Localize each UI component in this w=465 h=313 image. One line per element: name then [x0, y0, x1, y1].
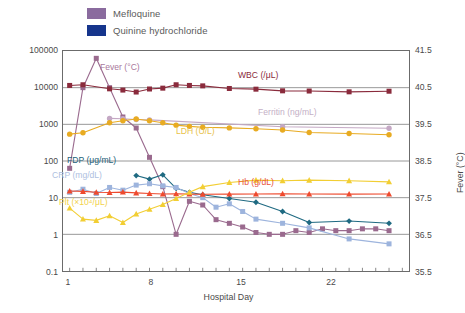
x-tick-15: 15: [233, 277, 249, 287]
treatment-legend: Mefloquine Quinine hydrochloride: [87, 6, 208, 40]
crp-label: CRP (mg/dL): [52, 170, 102, 180]
y-right-tick-38.5: 38.5: [415, 156, 432, 166]
ldh-label: LDH (U/L): [176, 126, 215, 136]
legend-label-quinine-hydrochloride: Quinine hydrochloride: [113, 25, 208, 36]
fdp-label: FDP (μg/mL): [67, 155, 116, 165]
y-right-tick-36.5: 36.5: [415, 230, 432, 240]
x-tick-1: 1: [60, 277, 76, 287]
x-axis-title: Hospital Day: [0, 292, 457, 302]
x-tick-22: 22: [323, 277, 339, 287]
y-right-tick-37.5: 37.5: [415, 193, 432, 203]
legend-label-mefloquine: Mefloquine: [113, 8, 160, 19]
y-right-tick-39.5: 39.5: [415, 119, 432, 129]
y-left-tick-1000: 1000: [0, 119, 58, 129]
y-left-tick-10000: 10000: [0, 82, 58, 92]
y-right-tick-40.5: 40.5: [415, 82, 432, 92]
series-wbc-l: [67, 82, 391, 94]
ferritin-label: Ferritin (ng/mL): [258, 107, 317, 117]
y-left-tick-0.1: 0.1: [0, 267, 58, 277]
legend-swatch-mefloquine: [87, 8, 106, 19]
legend-swatch-quinine-hydrochloride: [87, 25, 106, 36]
y-right-tick-41.5: 41.5: [415, 45, 432, 55]
y-left-tick-1: 1: [0, 230, 58, 240]
x-tick-8: 8: [143, 277, 159, 287]
y-left-tick-100: 100: [0, 156, 58, 166]
wbc-label: WBC (/μL): [238, 70, 278, 80]
y-left-tick-10: 10: [0, 193, 58, 203]
series-crp-mg-dl: [67, 181, 391, 246]
series-hb-g-dl: [67, 188, 392, 197]
fever-label: Fever (°C): [100, 62, 140, 72]
hb-label: Hb (g/dL): [238, 177, 274, 187]
legend-item-quinine-hydrochloride: Quinine hydrochloride: [87, 23, 208, 38]
series-fever-c: [67, 56, 391, 237]
series-ldh-u-l: [67, 116, 392, 137]
legend-item-mefloquine: Mefloquine: [87, 6, 208, 21]
y-right-tick-35.5: 35.5: [415, 267, 432, 277]
plt-label: Plt (×10⁴/μL): [59, 197, 108, 207]
y-left-tick-100000: 100000: [0, 45, 58, 55]
y-right-axis-title: Fever (°C): [455, 152, 465, 193]
